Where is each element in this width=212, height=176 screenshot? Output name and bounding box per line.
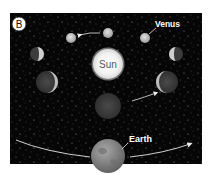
- panel-badge: B: [12, 17, 26, 31]
- sun-label: Sun: [99, 59, 117, 70]
- venus-phase-top-right-icon: [140, 33, 150, 43]
- venus-phases-diagram: B Sun Earth Venus: [0, 0, 212, 176]
- figure-caption-bottom: [10, 167, 200, 172]
- venus-label: Venus: [155, 19, 180, 29]
- venus-phase-low-right-icon: [156, 71, 178, 93]
- venus-phase-mid-right-icon: [169, 47, 183, 61]
- panel-label: B: [16, 19, 23, 30]
- sun: Sun: [92, 48, 125, 81]
- venus-phase-top-center-icon: [103, 28, 113, 38]
- earth-label: Earth: [129, 134, 152, 144]
- venus-phase-mid-left-icon: [30, 47, 44, 61]
- venus-phase-new-icon: [95, 93, 121, 119]
- venus-phase-top-left-icon: [66, 33, 76, 43]
- venus-phase-low-left-icon: [36, 71, 58, 93]
